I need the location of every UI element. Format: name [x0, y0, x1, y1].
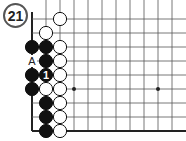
black-stone — [39, 124, 52, 137]
go-board: 1A — [0, 0, 186, 141]
white-stone — [53, 82, 66, 95]
move-number-label: 1 — [43, 69, 49, 81]
white-stone — [53, 96, 66, 109]
point-marker-label: A — [28, 55, 36, 67]
black-stone — [25, 68, 38, 81]
black-stone — [25, 40, 38, 53]
white-stone — [53, 110, 66, 123]
white-stone — [53, 12, 66, 25]
black-stone — [25, 82, 38, 95]
white-stone — [53, 40, 66, 53]
black-stone — [39, 40, 52, 53]
white-stone — [39, 26, 52, 39]
white-stone — [53, 54, 66, 67]
black-stone — [39, 96, 52, 109]
white-stone — [53, 68, 66, 81]
star-point — [156, 87, 160, 91]
black-stone — [39, 54, 52, 67]
white-stone — [39, 82, 52, 95]
star-point — [72, 87, 76, 91]
white-stone — [53, 124, 66, 137]
black-stone — [39, 110, 52, 123]
